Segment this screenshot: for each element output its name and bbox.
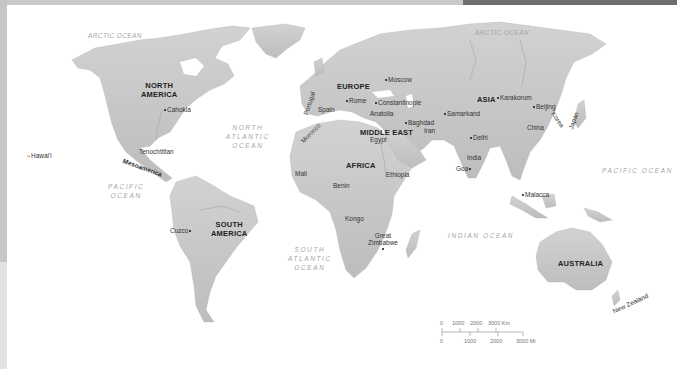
place-mali: Mali [295, 171, 307, 178]
ocean-label-pacific-west: PACIFIC OCEAN [108, 183, 144, 201]
city-dot-icon [469, 168, 471, 170]
city-dot-icon [533, 106, 535, 108]
place-moscow: Moscow [384, 77, 412, 84]
place-iran: Iran [424, 128, 435, 135]
ocean-label-line: OCEAN [108, 192, 144, 201]
scale-mi-1000: 1000 [464, 338, 476, 344]
landmass-indonesia [510, 196, 548, 218]
place-malacca: Malacca [521, 192, 549, 199]
scale-km-3000: 3000 Km [488, 320, 510, 326]
scale-mi-3000: 3000 Mi [516, 338, 536, 344]
ocean-label-pacific-east: PACIFIC OCEAN [602, 167, 673, 176]
ocean-label-south-atlantic: SOUTH ATLANTIC OCEAN [288, 246, 332, 272]
continent-label-south-america: SOUTH AMERICA [211, 221, 247, 237]
place-label: Samarkand [447, 110, 480, 117]
place-label: Rome [349, 97, 366, 104]
ocean-label-arctic-west: ARCTIC OCEAN [88, 33, 142, 40]
place-delhi: Delhi [469, 135, 488, 142]
ocean-label-line: ATLANTIC [288, 255, 332, 264]
city-dot-icon [470, 137, 472, 139]
place-tenochtitlan: Tenochtitlan [139, 149, 174, 156]
place-anatolia: Anatolia [370, 111, 394, 118]
place-baghdad: Baghdad [404, 120, 434, 127]
place-hawaii: Hawai'i [28, 153, 52, 160]
ocean-label-line: NORTH [226, 124, 270, 133]
scale-mi-2000: 2000 [490, 338, 502, 344]
place-egypt: Egypt [370, 137, 387, 144]
place-kongo: Kongo [345, 216, 364, 223]
place-beijing: Beijing [532, 104, 556, 111]
place-label: Baghdad [408, 119, 434, 126]
place-label: Cuzco [170, 227, 188, 234]
place-great-zimbabwe: Great Zimbabwe [368, 233, 398, 253]
place-label: Malacca [525, 191, 549, 198]
continent-label-line: AMERICA [211, 230, 247, 238]
continent-label-asia: ASIA [477, 96, 496, 104]
place-china: China [527, 125, 544, 132]
ocean-label-line: SOUTH [288, 246, 332, 255]
place-label: Constantinople [378, 99, 421, 106]
continent-label-line: NORTH [141, 82, 177, 90]
ocean-label-line: PACIFIC [108, 183, 144, 192]
place-karakorum: Karakorum [496, 95, 532, 102]
place-label: Beijing [536, 103, 556, 110]
place-benin: Benin [333, 183, 350, 190]
continent-label-line: SOUTH [211, 221, 247, 229]
place-goa: Goa [456, 166, 472, 173]
place-label: Moscow [388, 76, 412, 83]
place-india: India [467, 155, 481, 162]
scale-bar: 0 1000 2000 3000 Km 0 1000 2000 3000 Mi [436, 318, 556, 348]
place-label: Cahokia [167, 106, 191, 113]
landmass-south-america [170, 176, 258, 322]
place-constantinople: Constantinople [374, 100, 421, 107]
city-dot-icon [189, 230, 191, 232]
landmass-north-america [72, 26, 250, 182]
place-label: Delhi [473, 134, 488, 141]
place-ethiopia: Ethiopia [386, 172, 410, 179]
landmass-greenland [252, 24, 305, 58]
ocean-label-north-atlantic: NORTH ATLANTIC OCEAN [226, 124, 270, 150]
continent-label-africa: AFRICA [346, 162, 376, 170]
place-spain: Spain [318, 107, 335, 114]
city-dot-icon [405, 122, 407, 124]
city-dot-icon [382, 248, 384, 250]
place-label: Hawai'i [31, 152, 52, 159]
place-cahokia: Cahokia [163, 107, 191, 114]
city-dot-icon [522, 194, 524, 196]
continent-label-north-america: NORTH AMERICA [141, 82, 177, 98]
city-dot-icon [375, 102, 377, 104]
place-cuzco: Cuzco [170, 228, 192, 235]
city-dot-icon [346, 100, 348, 102]
city-dot-icon [497, 97, 499, 99]
city-dot-icon [164, 109, 166, 111]
ocean-label-indian: INDIAN OCEAN [448, 232, 514, 241]
continent-label-line: AMERICA [141, 91, 177, 99]
scale-mi-0: 0 [440, 338, 443, 344]
place-rome: Rome [345, 98, 366, 105]
ocean-label-arctic-east: ARCTIC OCEAN [475, 30, 529, 37]
ocean-label-line: ATLANTIC [226, 133, 270, 142]
scale-km-1000: 1000 [452, 320, 464, 326]
city-dot-icon [385, 79, 387, 81]
place-label: Karakorum [500, 94, 532, 101]
continent-label-europe: EUROPE [337, 83, 370, 91]
place-samarkand: Samarkand [443, 111, 480, 118]
ocean-label-line: OCEAN [288, 264, 332, 273]
scale-km-0: 0 [440, 320, 443, 326]
place-label: Goa [456, 165, 468, 172]
city-dot-icon [444, 113, 446, 115]
landmass-madagascar [406, 230, 420, 258]
city-dot-icon [29, 156, 30, 157]
ocean-label-line: OCEAN [226, 142, 270, 151]
continent-label-australia: AUSTRALIA [558, 260, 603, 268]
scale-km-2000: 2000 [470, 320, 482, 326]
